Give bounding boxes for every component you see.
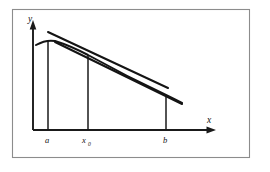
tick-label-b: b (163, 135, 167, 145)
tick-label-x0-subscript: 0 (88, 141, 91, 147)
tick-label-a: a (45, 135, 49, 145)
figure-canvas: y x a x 0 b (0, 0, 270, 172)
x-axis-label: x (206, 115, 212, 125)
figure-root: y x a x 0 b (0, 0, 270, 172)
y-axis-label: y (27, 14, 33, 24)
tick-label-x0: x (81, 135, 86, 145)
